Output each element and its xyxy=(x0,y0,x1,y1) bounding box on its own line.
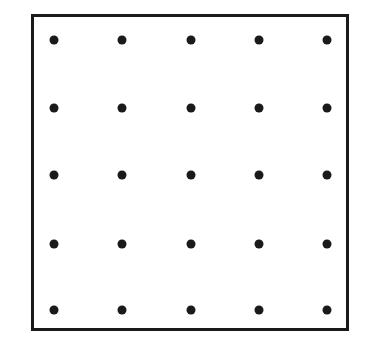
grid-dot xyxy=(323,240,332,249)
grid-dot xyxy=(187,306,196,315)
grid-dot xyxy=(118,104,127,113)
grid-dot xyxy=(323,104,332,113)
grid-dot xyxy=(323,306,332,315)
grid-dot xyxy=(187,104,196,113)
grid-dot xyxy=(255,171,264,180)
grid-dot xyxy=(50,240,59,249)
grid-dot xyxy=(255,36,264,45)
grid-dot xyxy=(187,36,196,45)
grid-dot xyxy=(187,171,196,180)
grid-dot xyxy=(118,240,127,249)
grid-dot xyxy=(255,104,264,113)
grid-dot xyxy=(118,171,127,180)
grid-dot xyxy=(50,36,59,45)
grid-dot xyxy=(323,36,332,45)
grid-dot xyxy=(187,240,196,249)
grid-dot xyxy=(118,306,127,315)
grid-dot xyxy=(118,36,127,45)
grid-dot xyxy=(255,306,264,315)
grid-dot xyxy=(50,104,59,113)
grid-dot xyxy=(50,306,59,315)
grid-dot xyxy=(50,171,59,180)
grid-dot xyxy=(255,240,264,249)
grid-dot xyxy=(323,171,332,180)
